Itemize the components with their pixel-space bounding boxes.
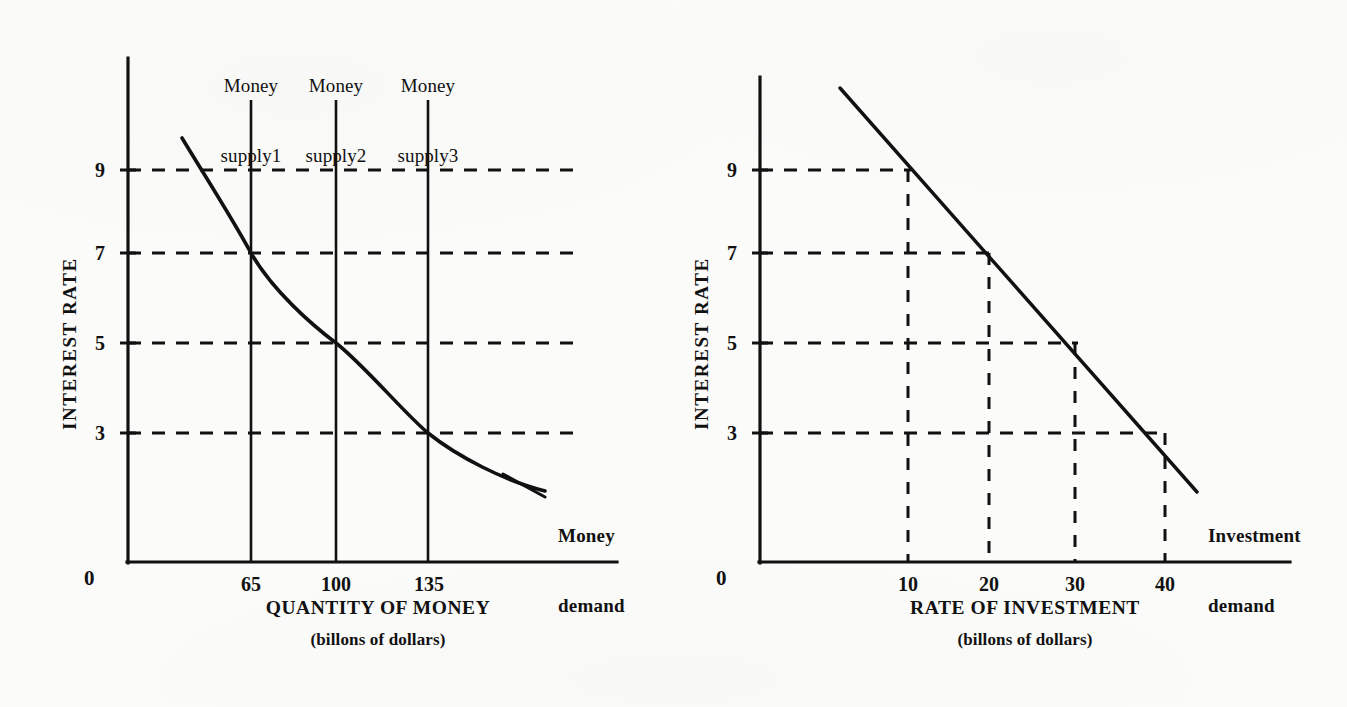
money-market-xtick-label-65: 65 xyxy=(221,572,281,596)
money-market-x-axis-subtitle: (billons of dollars) xyxy=(168,630,588,651)
money-market-ytick-label-9: 9 xyxy=(87,158,113,182)
investment-xtick-label-20: 20 xyxy=(959,572,1019,596)
money-market-ytick-label-5: 5 xyxy=(87,331,113,355)
investment-demand-curve xyxy=(840,88,1197,492)
investment-vertical-droplines xyxy=(908,170,1165,562)
investment-ytick-label-7: 7 xyxy=(719,241,745,265)
investment-ytick-label-9: 9 xyxy=(719,158,745,182)
money-demand-leader-line xyxy=(503,474,545,497)
investment-xtick-label-30: 30 xyxy=(1045,572,1105,596)
money-market-origin-label: 0 xyxy=(84,566,95,592)
money-market-x-axis-title: QUANTITY OF MONEY xyxy=(168,596,588,620)
economics-figure: .axis-line { stroke: #111111; stroke-wid… xyxy=(0,0,1347,707)
investment-ytick-label-5: 5 xyxy=(719,331,745,355)
investment-xtick-label-10: 10 xyxy=(878,572,938,596)
money-market-xtick-label-100: 100 xyxy=(303,572,369,596)
investment-origin-label: 0 xyxy=(716,566,727,592)
investment-x-axis-subtitle: (billons of dollars) xyxy=(815,630,1235,651)
investment-y-axis-title: INTEREST RATE xyxy=(690,257,713,430)
investment-x-axis-title: RATE OF INVESTMENT xyxy=(815,596,1235,620)
money-supply-3-label-line1: Money xyxy=(368,74,488,97)
investment-demand-label-line1: Investment xyxy=(1208,524,1347,547)
investment-horizontal-gridlines xyxy=(760,170,1168,433)
investment-ytick-label-3: 3 xyxy=(719,421,745,445)
investment-xtick-label-40: 40 xyxy=(1135,572,1195,596)
money-market-ytick-label-7: 7 xyxy=(87,241,113,265)
money-supply-3-label-line2: supply3 xyxy=(368,144,488,167)
money-supply-3-label: Money supply3 xyxy=(368,28,488,213)
money-market-ytick-label-3: 3 xyxy=(87,421,113,445)
money-market-xtick-label-135: 135 xyxy=(396,572,462,596)
money-demand-label-line1: Money xyxy=(558,524,688,547)
money-market-y-axis-title: INTEREST RATE xyxy=(58,257,81,430)
